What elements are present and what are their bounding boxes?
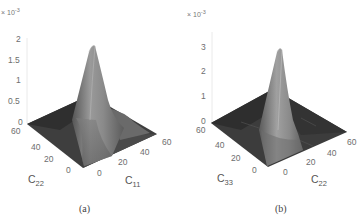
y-tick: 40 bbox=[31, 142, 41, 152]
z-tick: 2 bbox=[201, 66, 206, 76]
x-tick: 40 bbox=[140, 147, 150, 157]
z-exponent-label-b: × 10-3 bbox=[187, 9, 206, 18]
x-tick: 0 bbox=[283, 167, 288, 177]
z-tick: 1.5 bbox=[8, 55, 20, 65]
y-tick: 60 bbox=[196, 125, 206, 135]
y-tick: 0 bbox=[252, 165, 257, 175]
caption-b: (b) bbox=[275, 203, 287, 214]
z-tick: 1 bbox=[201, 91, 206, 101]
y-tick: 60 bbox=[11, 126, 21, 136]
z-exponent-label-a: × 10-3 bbox=[1, 7, 20, 16]
z-tick: 0.5 bbox=[8, 96, 20, 106]
y-tick: 0 bbox=[66, 165, 71, 175]
x-tick: 60 bbox=[162, 137, 172, 147]
plot-panel-b: × 10-3 3 2 1 0 60 40 20 0 0 20 40 60 C33… bbox=[181, 0, 363, 219]
surface-plot-b: × 10-3 3 2 1 0 60 40 20 0 0 20 40 60 C33… bbox=[181, 0, 363, 219]
x-tick: 40 bbox=[327, 148, 337, 158]
x-axis-label-a: C11 bbox=[125, 174, 140, 189]
surface-plot-a: × 10-3 2 1.5 1 0.5 0 60 40 20 0 0 20 40 … bbox=[0, 0, 181, 219]
y-axis-label-a: C22 bbox=[28, 173, 44, 188]
y-tick: 40 bbox=[215, 140, 225, 150]
z-tick: 3 bbox=[201, 42, 206, 52]
z-tick: 1 bbox=[16, 75, 21, 85]
x-tick: 60 bbox=[347, 137, 357, 147]
x-axis-label-b: C22 bbox=[311, 173, 327, 188]
plot-panel-a: × 10-3 2 1.5 1 0.5 0 60 40 20 0 0 20 40 … bbox=[0, 0, 181, 219]
x-tick: 20 bbox=[118, 157, 128, 167]
caption-a: (a) bbox=[79, 203, 90, 214]
x-tick: 20 bbox=[306, 157, 316, 167]
y-tick: 20 bbox=[44, 154, 54, 164]
x-tick: 0 bbox=[97, 168, 102, 178]
z-tick: 2 bbox=[16, 34, 21, 44]
y-axis-label-b: C33 bbox=[217, 172, 233, 187]
y-tick: 20 bbox=[231, 153, 241, 163]
